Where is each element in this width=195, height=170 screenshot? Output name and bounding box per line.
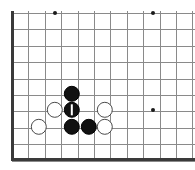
grid-line-vertical-11: [192, 11, 193, 159]
grid-line-vertical-2: [45, 11, 46, 159]
bottom-border: [11, 158, 195, 161]
grid-line-horizontal-0: [12, 13, 195, 14]
star-point-1: [53, 11, 57, 15]
grid-line-vertical-8: [143, 11, 144, 159]
grid-line-vertical-9: [160, 11, 161, 159]
grid-line-horizontal-1: [12, 29, 195, 30]
grid-line-vertical-3: [61, 11, 62, 159]
grid-line-vertical-4: [78, 11, 79, 159]
grid-line-horizontal-5: [12, 95, 195, 96]
grid-line-horizontal-3: [12, 62, 195, 63]
grid-line-vertical-5: [94, 11, 95, 159]
grid-line-vertical-6: [110, 11, 111, 159]
grid-line-vertical-7: [127, 11, 128, 159]
grid-line-horizontal-8: [12, 144, 195, 145]
left-border: [11, 11, 14, 161]
star-point-2: [151, 11, 155, 15]
go-board[interactable]: [0, 0, 195, 170]
last-move-marker: [71, 104, 73, 115]
star-point-3: [151, 108, 155, 112]
grid-line-vertical-1: [28, 11, 29, 159]
grid-line-horizontal-4: [12, 79, 195, 80]
grid-line-vertical-10: [176, 11, 177, 159]
grid-line-horizontal-2: [12, 46, 195, 47]
